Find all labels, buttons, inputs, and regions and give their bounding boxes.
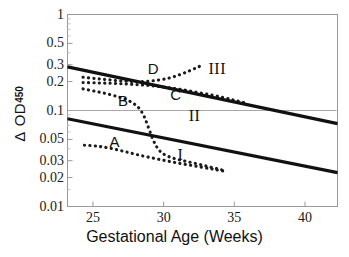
chart-figure: 10.50.30.20.10.050.030.020.01 25303540 Δ…	[0, 0, 349, 257]
y-axis-title: Δ OD450	[8, 49, 30, 179]
x-axis-labels: 25303540	[0, 0, 349, 257]
curve-label-D: D	[148, 61, 159, 76]
x-tick-label: 35	[214, 210, 254, 226]
y-axis-title-subscript: 450	[14, 86, 25, 103]
x-tick-label: 30	[144, 210, 184, 226]
x-axis-title: Gestational Age (Weeks)	[0, 228, 349, 246]
curve-label-B: B	[118, 93, 128, 108]
zone-label-II: II	[189, 108, 201, 124]
x-tick-label: 40	[285, 210, 325, 226]
curve-label-C: C	[170, 87, 181, 102]
zone-label-III: III	[209, 61, 226, 77]
curve-label-A: A	[110, 134, 120, 149]
y-axis-title-od: OD	[11, 103, 28, 127]
x-tick-label: 25	[73, 210, 113, 226]
y-axis-title-delta: Δ	[11, 131, 28, 142]
zone-label-I: I	[177, 147, 183, 163]
